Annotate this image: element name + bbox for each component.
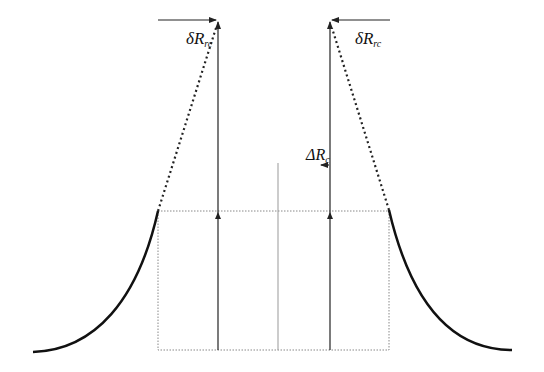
delta-rc-left-label: δRrc bbox=[186, 29, 213, 49]
left-dotted-extension bbox=[158, 28, 216, 211]
diagram-canvas: δRrc δRrc ΔRc bbox=[0, 0, 544, 372]
left-curve bbox=[33, 211, 158, 352]
right-curve bbox=[389, 210, 512, 350]
left-mid-arrowhead-icon bbox=[215, 212, 221, 219]
delta-rc-right-label: δRrc bbox=[355, 29, 382, 49]
right-dotted-extension bbox=[332, 28, 389, 210]
right-mid-arrowhead-icon bbox=[327, 212, 333, 219]
dotted-box bbox=[158, 211, 389, 350]
Delta-rc-label: ΔRc bbox=[305, 146, 330, 165]
